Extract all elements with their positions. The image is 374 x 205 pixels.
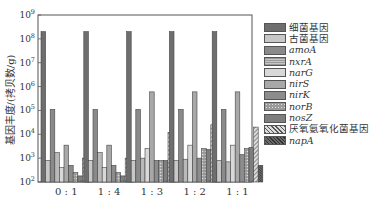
legend-label: napA — [289, 136, 314, 146]
legend-item: nirS — [264, 78, 369, 89]
bar-0-1-5 — [64, 145, 69, 182]
legend-label: nirS — [289, 79, 309, 89]
bar-0-1-0 — [41, 32, 46, 182]
x-tick-label: 1 : 4 — [98, 186, 120, 197]
bar-1-2-1 — [174, 160, 179, 182]
bar-1-1-1 — [217, 160, 222, 182]
legend-label: amoA — [289, 45, 316, 55]
bar-1-1-10 — [258, 165, 263, 182]
legend-label: 细菌基因 — [289, 23, 329, 33]
bar-1-3-7 — [159, 160, 164, 182]
bar-1-4-5 — [107, 145, 112, 182]
legend-label: 古菌基因 — [289, 34, 329, 44]
legend-item: 古菌基因 — [264, 33, 369, 44]
legend-item: nxrA — [264, 56, 369, 67]
x-tick-label: 0 : 1 — [55, 186, 77, 197]
legend-swatch — [264, 23, 286, 32]
bar-1-2-8 — [206, 150, 211, 182]
bar-1-1-6 — [240, 155, 245, 182]
legend-swatch — [264, 125, 286, 134]
legend-swatch — [264, 57, 286, 66]
y-tick-label: 105 — [19, 103, 35, 115]
x-tick-label: 1 : 2 — [183, 186, 205, 197]
bar-1-4-2 — [93, 109, 98, 182]
bar-1-3-0 — [127, 32, 132, 182]
bar-1-4-4 — [102, 168, 107, 182]
bar-0-1-3 — [55, 153, 60, 182]
bar-1-3-2 — [136, 109, 141, 182]
legend-swatch — [264, 34, 286, 43]
bar-1-4-7 — [116, 173, 121, 182]
legend-swatch — [264, 80, 286, 89]
legend-swatch — [264, 91, 286, 100]
x-axis: 0 : 11 : 41 : 31 : 21 : 1 — [55, 180, 252, 197]
bar-1-2-6 — [197, 158, 202, 182]
legend-swatch — [264, 114, 286, 123]
y-tick-label: 103 — [19, 151, 35, 163]
legend-item: 厌氧氨氧化菌基因 — [264, 124, 369, 135]
y-axis-label: 基因丰度/(拷贝数/g) — [4, 54, 16, 145]
bar-1-1-3 — [226, 162, 231, 182]
bar-1-3-8 — [163, 160, 168, 182]
legend-item: nirK — [264, 90, 369, 101]
bar-0-1-1 — [46, 160, 51, 182]
legend-label: nirK — [289, 90, 310, 100]
bar-1-4-0 — [84, 32, 89, 182]
bar-1-2-2 — [179, 109, 184, 182]
bar-1-1-5 — [235, 92, 240, 182]
plot-area — [38, 15, 263, 182]
bar-1-2-4 — [188, 145, 193, 182]
bar-1-1-0 — [212, 32, 217, 182]
bar-1-3-4 — [145, 149, 150, 182]
y-tick-label: 108 — [19, 32, 35, 44]
bar-0-1-6 — [69, 165, 74, 182]
legend-item: norB — [264, 101, 369, 112]
bar-1-3-3 — [140, 158, 145, 182]
y-tick-label: 104 — [19, 127, 35, 139]
bar-1-1-7 — [244, 149, 249, 182]
legend-swatch — [264, 68, 286, 77]
bar-1-2-0 — [169, 32, 174, 182]
bar-0-1-4 — [59, 168, 64, 182]
legend-item: 细菌基因 — [264, 22, 369, 33]
bar-1-1-8 — [249, 147, 254, 182]
bar-1-4-8 — [121, 176, 126, 182]
bar-1-2-3 — [183, 159, 188, 182]
legend: 细菌基因古菌基因amoAnxrAnarGnirSnirKnorBnosZ厌氧氨氧… — [264, 22, 369, 146]
legend-swatch — [264, 102, 286, 111]
bar-1-3-1 — [131, 160, 136, 182]
bar-1-4-3 — [98, 153, 103, 182]
bar-0-1-2 — [50, 109, 55, 182]
bar-1-1-2 — [221, 109, 226, 182]
bar-1-4-1 — [88, 160, 93, 182]
legend-label: norB — [289, 102, 312, 112]
legend-label: nosZ — [289, 113, 312, 123]
x-tick-label: 1 : 3 — [141, 186, 163, 197]
legend-label: 厌氧氨氧化菌基因 — [289, 124, 369, 134]
bar-1-3-5 — [150, 92, 155, 182]
legend-swatch — [264, 46, 286, 55]
legend-item: narG — [264, 67, 369, 78]
legend-label: nxrA — [289, 57, 312, 67]
legend-label: narG — [289, 68, 313, 78]
bar-0-1-7 — [73, 173, 78, 182]
bar-1-2-7 — [202, 149, 207, 182]
bar-1-4-6 — [111, 165, 116, 182]
y-tick-label: 106 — [19, 80, 35, 92]
legend-item: nosZ — [264, 112, 369, 123]
legend-item: amoA — [264, 45, 369, 56]
y-tick-label: 107 — [19, 56, 35, 68]
bar-1-3-6 — [154, 160, 159, 182]
legend-swatch — [264, 136, 286, 145]
bar-1-1-9 — [254, 127, 259, 182]
legend-item: napA — [264, 135, 369, 146]
bar-1-2-5 — [192, 92, 197, 182]
bar-0-1-8 — [78, 176, 83, 182]
y-tick-label: 109 — [19, 8, 35, 20]
x-tick-label: 1 : 1 — [226, 186, 248, 197]
bar-1-1-4 — [231, 145, 236, 182]
y-tick-label: 102 — [19, 175, 35, 187]
